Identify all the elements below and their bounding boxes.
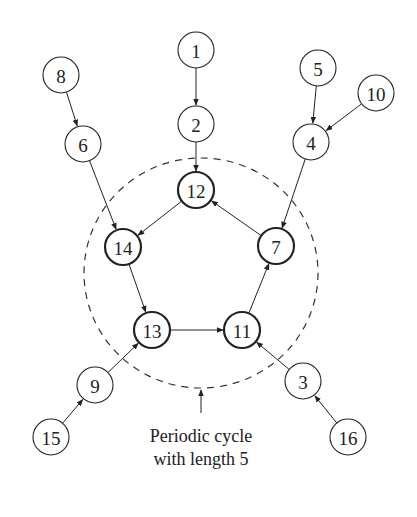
node-label: 7	[271, 237, 281, 258]
edge-14-to-13	[129, 264, 146, 312]
edge-11-to-7	[249, 264, 269, 314]
node-label: 1	[191, 41, 201, 62]
node-label: 8	[56, 66, 66, 87]
node-8: 8	[43, 57, 79, 93]
node-12: 12	[178, 172, 214, 208]
node-label: 4	[306, 133, 316, 154]
nodes-layer: 12865104121471311931516	[33, 32, 394, 455]
caption-line-1: Periodic cycle	[150, 426, 252, 446]
node-5: 5	[300, 50, 336, 86]
node-label: 11	[233, 321, 251, 342]
node-14: 14	[105, 229, 141, 265]
edge-6-to-14	[90, 161, 117, 230]
caption-line-2: with length 5	[154, 449, 249, 469]
node-13: 13	[134, 312, 170, 348]
node-label: 15	[42, 428, 61, 449]
edge-5-to-4	[313, 86, 317, 123]
node-6: 6	[65, 126, 101, 162]
node-label: 13	[143, 321, 162, 342]
edge-7-to-12	[212, 201, 262, 236]
node-15: 15	[33, 419, 69, 455]
edge-10-to-4	[326, 104, 361, 131]
node-label: 16	[339, 428, 358, 449]
edge-9-to-13	[108, 343, 138, 372]
edge-3-to-11	[257, 342, 290, 369]
node-9: 9	[77, 367, 113, 403]
periodic-cycle-diagram: 12865104121471311931516 Periodic cycle w…	[0, 0, 417, 517]
node-label: 10	[367, 84, 386, 105]
node-label: 6	[78, 135, 88, 156]
edge-8-to-6	[66, 92, 77, 126]
node-label: 5	[313, 59, 323, 80]
node-11: 11	[224, 312, 260, 348]
node-2: 2	[178, 106, 214, 142]
edge-15-to-9	[63, 400, 83, 424]
node-10: 10	[358, 75, 394, 111]
node-4: 4	[293, 124, 329, 160]
node-label: 2	[191, 115, 201, 136]
node-label: 3	[298, 372, 308, 393]
node-7: 7	[258, 228, 294, 264]
edge-16-to-3	[315, 396, 337, 423]
edge-12-to-14	[138, 201, 182, 235]
node-label: 14	[114, 238, 134, 259]
node-label: 9	[90, 376, 100, 397]
node-16: 16	[330, 419, 366, 455]
node-3: 3	[285, 363, 321, 399]
node-label: 12	[187, 181, 206, 202]
node-1: 1	[178, 32, 214, 68]
